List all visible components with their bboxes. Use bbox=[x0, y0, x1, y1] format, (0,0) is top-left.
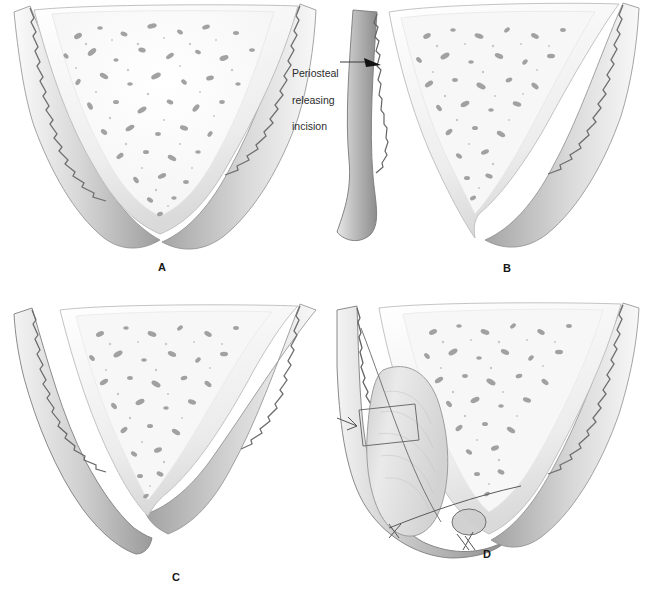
panel-d: D Onlay bone graft placed and flap close… bbox=[323, 300, 646, 605]
panel-a: A Intact mandibular cross-section: mucop… bbox=[0, 0, 323, 300]
suture-knot-loop bbox=[452, 509, 486, 535]
flap-periosteum-edge bbox=[374, 14, 388, 173]
panel-b: B Flap reflected; periosteal releasing i… bbox=[323, 0, 646, 300]
callout-line-3: incision bbox=[292, 120, 356, 133]
panel-c-illustration bbox=[0, 300, 323, 605]
callout-leader bbox=[340, 50, 392, 86]
callout-line-2: releasing bbox=[292, 94, 356, 107]
panel-label-c: C bbox=[172, 571, 180, 583]
panel-label-a: A bbox=[158, 261, 166, 273]
panel-label-b: B bbox=[503, 262, 511, 274]
arrowhead-icon bbox=[364, 58, 381, 67]
panel-c: C Flap advanced coronally after perioste… bbox=[0, 300, 323, 605]
medical-illustration-figure: Periosteal releasing incision technique … bbox=[0, 0, 646, 605]
panel-a-illustration bbox=[0, 0, 323, 300]
panel-label-d: D bbox=[483, 548, 491, 560]
panel-b-illustration bbox=[323, 0, 646, 300]
